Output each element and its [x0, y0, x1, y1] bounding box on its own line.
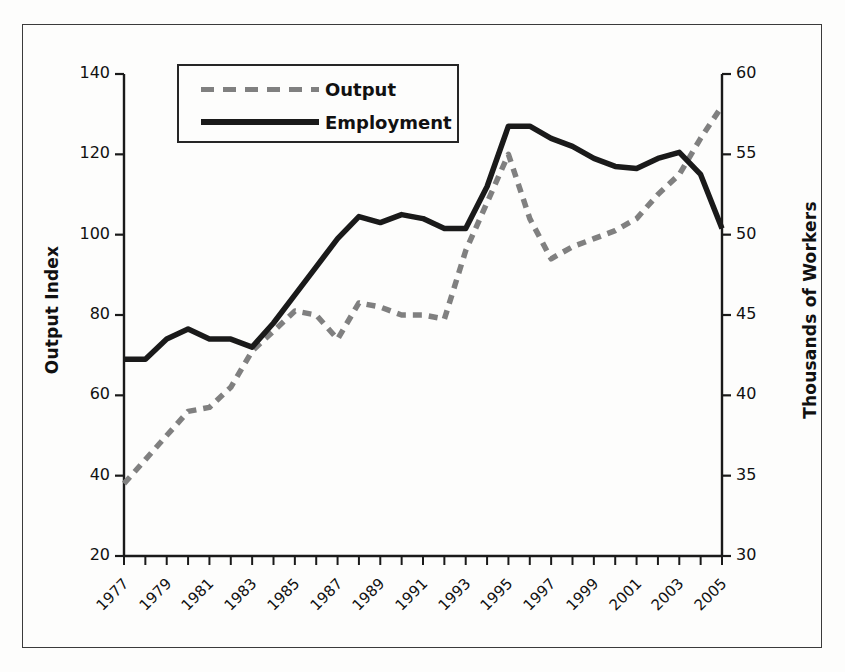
y-tick-left-80: 80 [64, 304, 110, 323]
y-axis-right-title: Thousands of Workers [800, 190, 820, 430]
y-tick-right-55: 55 [736, 143, 782, 162]
chart-figure: Output Index Thousands of Workers 204060… [0, 0, 845, 672]
axis-ticks [115, 74, 731, 565]
y-tick-right-60: 60 [736, 63, 782, 82]
y-tick-left-20: 20 [64, 545, 110, 564]
legend-label-output: Output [325, 79, 396, 100]
y-tick-right-50: 50 [736, 224, 782, 243]
y-axis-left-title: Output Index [42, 210, 62, 410]
y-tick-left-40: 40 [64, 465, 110, 484]
axis-lines [124, 74, 722, 556]
legend-item-employment: Employment [179, 107, 461, 137]
y-tick-right-45: 45 [736, 304, 782, 323]
y-tick-left-140: 140 [64, 63, 110, 82]
dashed-line-swatch-icon [201, 80, 319, 98]
chart-legend: Output Employment [177, 64, 459, 143]
y-tick-left-120: 120 [64, 143, 110, 162]
y-tick-right-40: 40 [736, 384, 782, 403]
series-line-employment [124, 126, 722, 359]
legend-item-output: Output [179, 74, 461, 104]
y-tick-left-60: 60 [64, 384, 110, 403]
y-tick-left-100: 100 [64, 224, 110, 243]
legend-label-employment: Employment [325, 112, 452, 133]
series-line-output [124, 106, 722, 484]
y-tick-right-35: 35 [736, 465, 782, 484]
solid-line-swatch-icon [201, 113, 319, 131]
series-lines [124, 106, 722, 484]
y-tick-right-30: 30 [736, 545, 782, 564]
